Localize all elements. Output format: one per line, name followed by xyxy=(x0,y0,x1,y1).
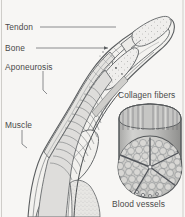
label-bone: Bone xyxy=(5,43,25,53)
bone-marrow-dot-2 xyxy=(121,73,123,75)
label-blood-vessels: Blood vessels xyxy=(112,199,165,209)
anatomy-figure: Tendon Bone Aponeurosis Muscle Collagen … xyxy=(0,0,185,217)
label-tendon: Tendon xyxy=(5,22,33,32)
label-muscle: Muscle xyxy=(5,120,32,130)
anatomy-illustration xyxy=(0,0,185,217)
collagen-bundle-inset xyxy=(116,104,182,198)
label-collagen-fibers: Collagen fibers xyxy=(118,90,175,100)
label-aponeurosis: Aponeurosis xyxy=(5,62,53,72)
central-vessel-hub xyxy=(148,165,152,169)
bone-marrow-dot-1 xyxy=(115,67,117,69)
